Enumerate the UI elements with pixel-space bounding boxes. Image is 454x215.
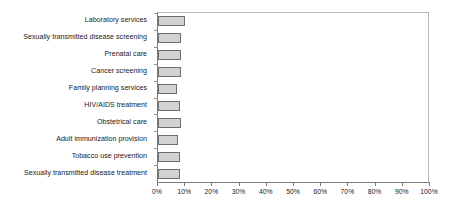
category-label: Obstetrical care: [97, 119, 147, 126]
x-tick-label: 30%: [232, 189, 246, 196]
x-tick-label: 60%: [313, 189, 327, 196]
bar-row: [158, 64, 428, 81]
category-label-row: Obstetrical care: [0, 114, 152, 131]
category-label: Prenatal care: [105, 51, 147, 58]
bar-row: [158, 13, 428, 30]
bar: [158, 169, 180, 179]
category-label-row: Laboratory services: [0, 12, 152, 29]
x-tick-label: 100%: [420, 189, 437, 196]
x-tick-label: 10%: [177, 189, 191, 196]
bar-row: [158, 165, 428, 182]
category-label: Adult immunization provision: [56, 136, 147, 143]
horizontal-bar-chart: Laboratory services Sexually transmitted…: [0, 0, 454, 215]
x-tick-label: 50%: [286, 189, 300, 196]
category-label: Tobacco use prevention: [72, 153, 147, 160]
x-tick-label: 70%: [341, 189, 355, 196]
category-label-row: HIV/AIDS treatment: [0, 97, 152, 114]
bar-row: [158, 47, 428, 64]
x-tick: [157, 182, 158, 186]
x-tick-label: 0%: [152, 189, 162, 196]
bar: [158, 33, 181, 43]
category-label-row: Sexually transmitted disease screening: [0, 29, 152, 46]
bar: [158, 67, 181, 77]
x-tick: [293, 182, 294, 186]
x-tick: [429, 182, 430, 186]
bar: [158, 84, 177, 94]
x-tick: [266, 182, 267, 186]
bar-row: [158, 81, 428, 98]
x-tick-label: 90%: [395, 189, 409, 196]
bar: [158, 50, 181, 60]
category-label-row: Sexually transmitted disease treatment: [0, 165, 152, 182]
bar-row: [158, 30, 428, 47]
category-label: HIV/AIDS treatment: [84, 102, 147, 109]
x-tick-label: 80%: [368, 189, 382, 196]
bar-row: [158, 114, 428, 131]
x-tick: [375, 182, 376, 186]
x-tick-label: 20%: [205, 189, 219, 196]
x-tick-label: 40%: [259, 189, 273, 196]
x-tick: [402, 182, 403, 186]
bar: [158, 101, 180, 111]
plot-area: [157, 12, 429, 182]
category-label: Laboratory services: [85, 17, 147, 24]
category-axis-labels: Laboratory services Sexually transmitted…: [0, 12, 152, 182]
bar-row: [158, 148, 428, 165]
x-tick: [184, 182, 185, 186]
bar: [158, 152, 180, 162]
category-label-row: Prenatal care: [0, 46, 152, 63]
category-label: Family planning services: [69, 85, 147, 92]
bar-row: [158, 131, 428, 148]
x-tick: [239, 182, 240, 186]
bars-layer: [158, 13, 428, 182]
bar: [158, 135, 178, 145]
x-tick: [320, 182, 321, 186]
x-axis-tick-labels: 0%10%20%30%40%50%60%70%80%90%100%: [157, 189, 429, 203]
category-label-row: Cancer screening: [0, 63, 152, 80]
category-label: Cancer screening: [91, 68, 147, 75]
x-tick: [211, 182, 212, 186]
bar: [158, 118, 181, 128]
category-label-row: Tobacco use prevention: [0, 148, 152, 165]
x-tick: [347, 182, 348, 186]
category-label: Sexually transmitted disease treatment: [24, 170, 147, 177]
category-label-row: Adult immunization provision: [0, 131, 152, 148]
category-label: Sexually transmitted disease screening: [23, 34, 147, 41]
category-label-row: Family planning services: [0, 80, 152, 97]
bar-row: [158, 98, 428, 115]
bar: [158, 16, 185, 26]
